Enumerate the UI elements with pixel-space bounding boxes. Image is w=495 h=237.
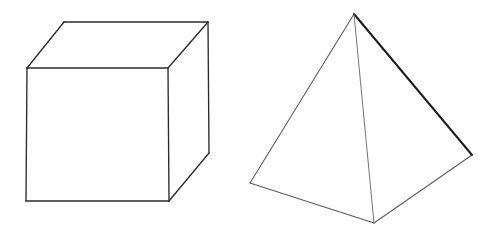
cube-face-front (26, 68, 169, 201)
solids-drawing (0, 0, 495, 237)
figure-canvas (0, 0, 495, 237)
shape-cube[interactable] (26, 22, 209, 201)
